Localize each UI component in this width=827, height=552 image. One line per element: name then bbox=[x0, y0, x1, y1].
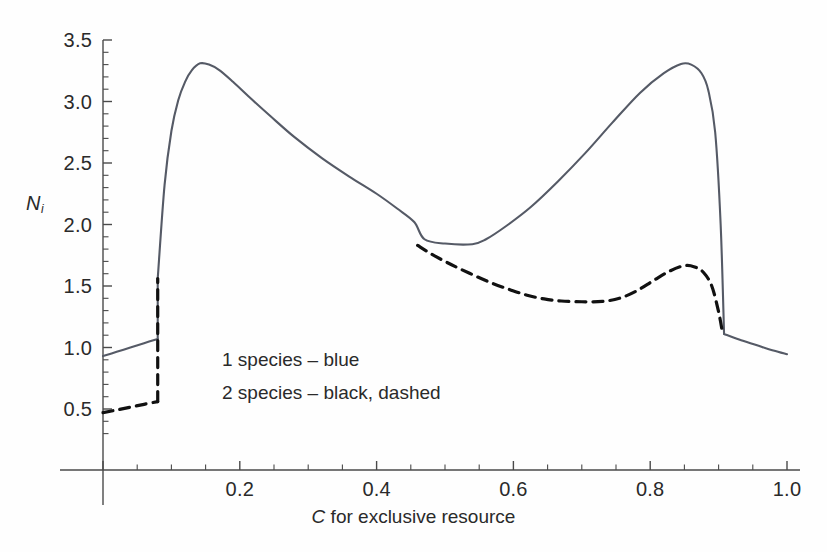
series-layer bbox=[103, 63, 787, 413]
x-axis-label: C for exclusive resource bbox=[0, 506, 827, 528]
legend-entry-2-species: 2 species – black, dashed bbox=[222, 382, 441, 404]
series-0-segment-3 bbox=[724, 334, 787, 354]
y-tick-label: 0.5 bbox=[40, 398, 92, 421]
series-0-segment-2 bbox=[158, 63, 724, 334]
x-tick-label: 0.6 bbox=[499, 478, 527, 501]
y-axis-label-main: N bbox=[26, 192, 40, 214]
y-tick-label: 3.0 bbox=[40, 90, 92, 113]
legend-entry-1-species: 1 species – blue bbox=[222, 349, 359, 371]
y-tick-label: 3.5 bbox=[40, 29, 92, 52]
y-tick-label: 1.5 bbox=[40, 275, 92, 298]
x-tick-label: 1.0 bbox=[773, 478, 801, 501]
chart-figure: Ni C for exclusive resource 1 species – … bbox=[0, 0, 827, 552]
y-tick-label: 1.0 bbox=[40, 336, 92, 359]
y-tick-label: 2.5 bbox=[40, 152, 92, 175]
x-axis-label-symbol: C bbox=[312, 506, 326, 527]
axis-layer bbox=[60, 40, 800, 505]
x-tick-label: 0.8 bbox=[636, 478, 664, 501]
x-tick-label: 0.4 bbox=[362, 478, 390, 501]
x-tick-label: 0.2 bbox=[226, 478, 254, 501]
series-1-segment-2 bbox=[418, 245, 723, 334]
plot-canvas bbox=[0, 0, 827, 552]
y-tick-label: 2.0 bbox=[40, 213, 92, 236]
series-1-segment-0 bbox=[103, 402, 158, 413]
x-axis-label-text: for exclusive resource bbox=[325, 506, 515, 527]
